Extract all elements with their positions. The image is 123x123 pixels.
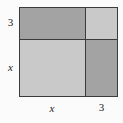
cell-top-left — [20, 8, 86, 40]
label-bottom-right-width: 3 — [95, 102, 108, 113]
cell-bottom-right — [86, 40, 117, 96]
label-left-top-height: 3 — [4, 17, 17, 28]
label-left-bottom-height: x — [4, 62, 17, 73]
partitioned-square — [19, 7, 118, 97]
area-model-figure: 3 x x 3 — [0, 0, 123, 123]
label-bottom-left-width: x — [45, 103, 59, 114]
cell-top-right — [86, 8, 117, 40]
cell-bottom-left — [20, 40, 86, 96]
